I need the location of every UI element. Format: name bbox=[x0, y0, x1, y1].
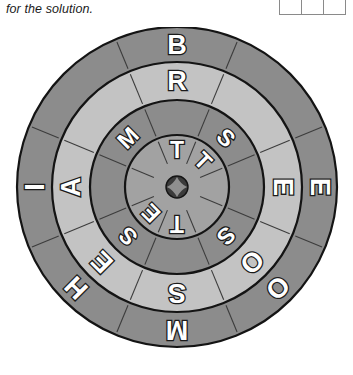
wheel-letter[interactable]: T bbox=[170, 211, 184, 237]
answer-cell[interactable] bbox=[301, 0, 324, 15]
word-wheel-svg[interactable]: BEOMHIREOSEASSSMTTTE bbox=[0, 27, 353, 375]
wheel-letter[interactable]: T bbox=[170, 137, 184, 163]
wheel-letter[interactable]: E bbox=[305, 178, 335, 196]
wheel-letter[interactable]: E bbox=[268, 178, 298, 196]
answer-cell[interactable] bbox=[279, 0, 302, 15]
wheel-letter[interactable]: B bbox=[167, 30, 187, 60]
wheel-letter[interactable]: S bbox=[168, 278, 186, 308]
answer-cell[interactable] bbox=[323, 0, 346, 15]
caption-text: for the solution. bbox=[6, 2, 93, 16]
wheel-letter[interactable]: M bbox=[166, 315, 189, 345]
puzzle-page: for the solution. BEOMHIREOSEASSSMTTTE bbox=[0, 0, 353, 375]
answer-boxes bbox=[279, 0, 346, 15]
wheel-letter[interactable]: R bbox=[167, 66, 187, 96]
wheel-letter[interactable]: A bbox=[56, 177, 86, 197]
wheel-letter[interactable]: I bbox=[20, 183, 50, 191]
word-wheel[interactable]: BEOMHIREOSEASSSMTTTE bbox=[0, 27, 353, 375]
